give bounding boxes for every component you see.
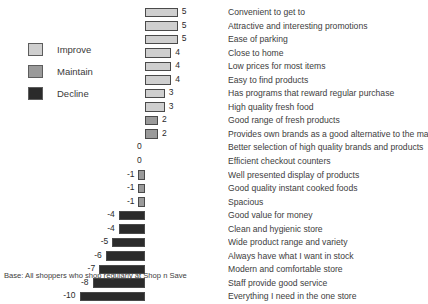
base-footnote: Base: All shoppers who shop regularly at… [4,271,187,280]
bar [138,170,145,180]
bar-row: 4 [0,47,222,61]
bar-row: -6 [0,250,222,264]
bar-row: 5 [0,20,222,34]
category-label: Always have what I want in stock [228,250,428,264]
bar-value-label: 5 [182,6,187,17]
bar-value-label: 5 [182,20,187,31]
category-label: Low prices for most items [228,60,428,74]
bar-row: 2 [0,128,222,142]
category-label: Staff provide good service [228,277,428,291]
bar-row: -10 [0,290,222,304]
bar-row: -4 [0,223,222,237]
bar-value-label: -1 [127,182,135,193]
bar [145,48,171,58]
bar [106,251,145,261]
bar [145,35,178,45]
bar-value-label: 3 [169,87,174,98]
category-label: Good range of fresh products [228,114,428,128]
bar [112,238,145,248]
bar-row: 3 [0,87,222,101]
bar-value-label: -5 [101,236,109,247]
bar-row: -1 [0,196,222,210]
bar [145,129,158,139]
bar [80,292,146,302]
bar-row: 3 [0,101,222,115]
bar-row: -1 [0,169,222,183]
bar-row: 4 [0,74,222,88]
bar-value-label: 0 [137,141,142,152]
category-label: Ease of parking [228,33,428,47]
category-label-list: Convenient to get toAttractive and inter… [228,6,428,304]
bar-value-label: 0 [137,155,142,166]
bar [145,75,171,85]
bar-row: -5 [0,236,222,250]
bar-row: 5 [0,33,222,47]
bar [138,197,145,207]
bar-row: -1 [0,182,222,196]
bar-value-label: 2 [162,128,167,139]
bar-value-label: 4 [175,60,180,71]
category-label: Clean and hygienic store [228,223,428,237]
bar [145,89,165,99]
category-label: Well presented display of products [228,169,428,183]
category-label: Spacious [228,196,428,210]
category-label: Attractive and interesting promotions [228,20,428,34]
category-label: Efficient checkout counters [228,155,428,169]
bar-row: 5 [0,6,222,20]
bar-value-label: 4 [175,74,180,85]
bar-row: 2 [0,114,222,128]
category-label: Modern and comfortable store [228,263,428,277]
category-label: Wide product range and variety [228,236,428,250]
bar-value-label: -6 [94,250,102,261]
category-label: Close to home [228,47,428,61]
bar-value-label: -1 [127,196,135,207]
bar-value-label: 5 [182,33,187,44]
bar [145,8,178,18]
bar-row: 0 [0,155,222,169]
category-label: Good quality instant cooked foods [228,182,428,196]
bar [145,116,158,126]
bar [145,102,165,112]
bar-row: -4 [0,209,222,223]
plot-area: 555444332200-1-1-1-4-4-5-6-7-8-10 [0,6,222,274]
category-label: Easy to find products [228,74,428,88]
bar-value-label: 3 [169,101,174,112]
bar [119,224,145,234]
bar [138,184,145,194]
category-label: Provides own brands as a good alternativ… [228,128,428,142]
bar-row: 4 [0,60,222,74]
bar-value-label: 4 [175,47,180,58]
category-label: Has programs that reward regular purchas… [228,87,428,101]
category-label: High quality fresh food [228,101,428,115]
bar-value-label: -4 [107,209,115,220]
category-label: Convenient to get to [228,6,428,20]
category-label: Better selection of high quality brands … [228,141,428,155]
bar [145,62,171,72]
bar [119,211,145,221]
bar-row: 0 [0,141,222,155]
bar-value-label: -1 [127,169,135,180]
category-label: Good value for money [228,209,428,223]
category-label: Everything I need in the one store [228,290,428,304]
bar-value-label: 2 [162,114,167,125]
bar-value-label: -10 [63,290,75,301]
bar-value-label: -4 [107,223,115,234]
bar [145,21,178,31]
